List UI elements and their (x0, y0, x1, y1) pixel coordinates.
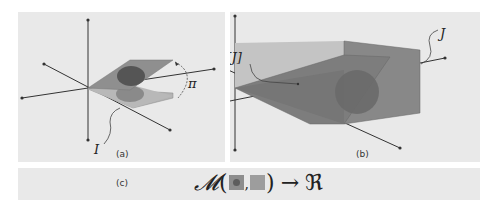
diagram-b: π[J] J (230, 12, 480, 162)
diagram-a: π I (18, 12, 225, 162)
close-paren: ) (266, 170, 275, 195)
panel-b: π[J] J (b) (230, 12, 480, 162)
open-paren: ( (219, 170, 228, 195)
sphere (335, 70, 379, 114)
codomain-real: ℜ (305, 170, 323, 195)
comma: , (245, 176, 249, 192)
rotation-arc (175, 62, 187, 98)
caption-c: (c) (116, 178, 128, 188)
label-pi-J: π[J] (230, 50, 243, 65)
plane-with-ellipse-icon (229, 175, 244, 190)
label-I: I (93, 142, 100, 157)
formula: 𝓜 ( , ) → ℜ (194, 170, 323, 195)
label-J: J (437, 26, 446, 41)
panel-a: π I (a) (18, 12, 225, 162)
panel-c: (c) 𝓜 ( , ) → ℜ (18, 168, 480, 200)
pointer-J (421, 30, 438, 64)
label-pi: π (187, 76, 197, 91)
upper-ellipse (117, 66, 145, 86)
operator-M: 𝓜 (194, 170, 219, 195)
label-pointer-I (104, 108, 120, 144)
caption-b: (b) (356, 149, 369, 159)
box-region-icon (250, 175, 265, 190)
arrow: → (281, 170, 299, 195)
caption-a: (a) (116, 149, 129, 159)
